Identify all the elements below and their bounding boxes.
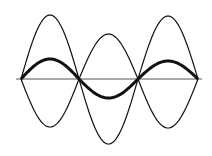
envelope-curve	[21, 79, 79, 127]
envelope-curve	[79, 34, 138, 79]
standing-wave-diagram	[0, 0, 212, 156]
envelope-curve	[138, 79, 198, 128]
